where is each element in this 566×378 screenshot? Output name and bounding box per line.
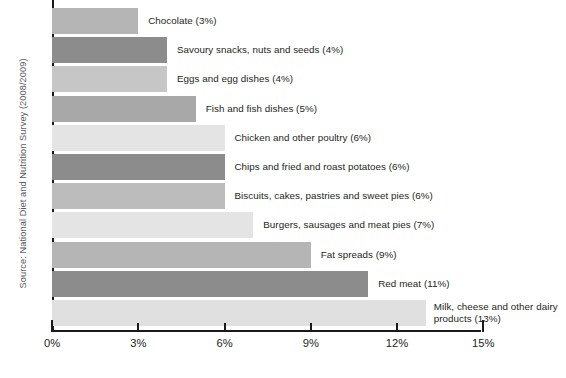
x-axis-tick xyxy=(310,323,312,332)
bar xyxy=(52,125,225,151)
bar-value-label: Chicken and other poultry (6%) xyxy=(235,132,372,144)
bar xyxy=(52,154,225,180)
bar-value-label: Fat spreads (9%) xyxy=(321,248,397,260)
bar-value-label: Red meat (11%) xyxy=(378,278,449,290)
bar xyxy=(52,96,196,122)
x-axis-tick xyxy=(137,323,139,332)
x-axis-tick-label: 15% xyxy=(472,337,494,349)
bar-row: Eggs and egg dishes (4%) xyxy=(52,66,552,92)
bar-value-label: Eggs and egg dishes (4%) xyxy=(177,73,293,85)
bar xyxy=(52,212,253,238)
bar-value-label: Burgers, sausages and meat pies (7%) xyxy=(263,219,434,231)
bar xyxy=(52,183,225,209)
bar xyxy=(52,242,311,268)
bar-row: Savoury snacks, nuts and seeds (4%) xyxy=(52,37,552,63)
bar-row: Chicken and other poultry (6%) xyxy=(52,125,552,151)
x-axis-tick-label: 0% xyxy=(44,337,60,349)
x-axis-tick xyxy=(51,320,53,332)
bar-value-label: Savoury snacks, nuts and seeds (4%) xyxy=(177,44,343,56)
bar-row: Chips and fried and roast potatoes (6%) xyxy=(52,154,552,180)
bar-row: Fish and fish dishes (5%) xyxy=(52,96,552,122)
x-axis-tick xyxy=(224,323,226,332)
bar xyxy=(52,8,138,34)
bar-row: Fat spreads (9%) xyxy=(52,242,552,268)
bar xyxy=(52,300,426,326)
bar-value-label: Fish and fish dishes (5%) xyxy=(206,102,317,114)
bar xyxy=(52,37,167,63)
horizontal-bar-chart: Source: National Diet and Nutrition Surv… xyxy=(0,0,566,378)
x-axis-tick xyxy=(396,323,398,332)
x-axis-tick-label: 6% xyxy=(216,337,232,349)
bar-row: Red meat (11%) xyxy=(52,271,552,297)
bar-value-label: Chocolate (3%) xyxy=(148,15,216,27)
bar-row: Chocolate (3%) xyxy=(52,8,552,34)
source-note: Source: National Diet and Nutrition Surv… xyxy=(0,0,46,330)
bar-row: Biscuits, cakes, pastries and sweet pies… xyxy=(52,183,552,209)
x-axis-line xyxy=(52,330,481,332)
x-axis-tick xyxy=(482,320,484,332)
bar-value-label: Biscuits, cakes, pastries and sweet pies… xyxy=(235,190,433,202)
bar xyxy=(52,271,368,297)
x-axis-tick-label: 3% xyxy=(130,337,146,349)
bar-row: Milk, cheese and other dairy products (1… xyxy=(52,300,552,326)
x-axis-tick-label: 9% xyxy=(303,337,319,349)
bar-value-label: Milk, cheese and other dairy products (1… xyxy=(434,301,560,326)
x-axis-tick-label: 12% xyxy=(386,337,408,349)
source-note-label: Source: National Diet and Nutrition Surv… xyxy=(18,27,29,289)
bar-value-label: Chips and fried and roast potatoes (6%) xyxy=(235,161,410,173)
plot-area: Chocolate (3%)Savoury snacks, nuts and s… xyxy=(46,0,566,330)
bar-row: Burgers, sausages and meat pies (7%) xyxy=(52,212,552,238)
bar xyxy=(52,66,167,92)
